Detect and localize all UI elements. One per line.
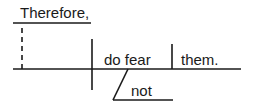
verb-word: do fear	[104, 52, 151, 67]
direct-object-word: them.	[181, 52, 219, 67]
modifier-slant	[113, 69, 128, 100]
sentence-diagram: Therefore, do fear them. not	[0, 0, 253, 105]
conjunctive-adverb-word: Therefore,	[20, 5, 89, 20]
modifier-word: not	[131, 83, 152, 98]
